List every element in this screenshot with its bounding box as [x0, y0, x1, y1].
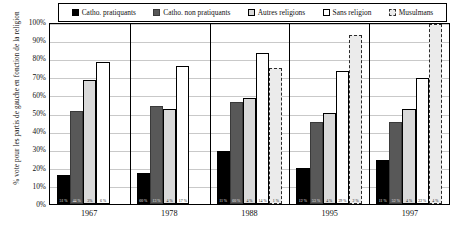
bar-base-note: 4 % — [167, 199, 173, 203]
bar-base-note: 14 % — [259, 199, 267, 203]
bar[interactable]: 4 % — [243, 98, 256, 204]
bar[interactable]: 4 % — [323, 113, 336, 204]
bar[interactable]: 22 % — [416, 78, 429, 204]
legend-swatch-icon — [248, 9, 255, 16]
bar[interactable]: 6 % — [96, 62, 109, 204]
bar-slot: 4 % — [243, 24, 256, 204]
bar-base-note: 1 % — [273, 199, 279, 203]
y-tick-label: 60% — [32, 92, 46, 100]
bar[interactable]: 52 % — [389, 122, 402, 204]
x-axis-tick-labels: 19671978198819951997 — [49, 207, 450, 223]
y-tick-label: 20% — [32, 165, 46, 173]
legend-item[interactable]: Autres religions — [248, 8, 305, 17]
bar-slot: 2 % — [349, 24, 362, 204]
bar[interactable]: 17 % — [176, 66, 189, 204]
bar-slot: 17 % — [176, 24, 189, 204]
legend-label: Autres religions — [258, 8, 305, 17]
bar-group-1995: 12 %53 %4 %29 %2 % — [289, 24, 369, 204]
bar[interactable]: 1 % — [269, 68, 282, 205]
bar-base-note: 60 % — [139, 199, 147, 203]
bar[interactable]: 44 % — [70, 111, 83, 204]
bar-base-note: 6 % — [100, 199, 106, 203]
bar-base-note: 53 % — [312, 199, 320, 203]
plot-area: 51 %44 %3%6 %60 %13 %4 %17 %11 %60 %4 %1… — [49, 23, 450, 205]
bar-slot: 52 % — [389, 24, 402, 204]
bar[interactable]: 29 % — [336, 71, 349, 204]
bar[interactable]: 3% — [83, 80, 96, 204]
bar-base-note: 29 % — [338, 199, 346, 203]
bar-base-note: 51 % — [59, 199, 67, 203]
legend-label: Catho. non pratiquants — [163, 8, 230, 17]
bar-base-note: 44 % — [73, 199, 81, 203]
bar-slot: 60 % — [137, 24, 150, 204]
legend-item[interactable]: Catho. pratiquants — [72, 8, 136, 17]
bar-slot: 4 % — [323, 24, 336, 204]
x-tick-label: 1978 — [129, 207, 209, 223]
bar[interactable]: 53 % — [310, 122, 323, 204]
y-axis-tick-labels: 0%10%20%30%40%50%60%70%80%90%100% — [12, 23, 46, 205]
bar-base-note: 17 % — [179, 199, 187, 203]
y-tick-label: 40% — [32, 128, 46, 136]
bar-group-1988: 11 %60 %4 %14 %1 % — [210, 24, 290, 204]
bar[interactable]: 14 % — [256, 53, 269, 204]
bar[interactable]: 12 % — [296, 168, 309, 204]
legend-item[interactable]: Musulmans — [389, 8, 434, 17]
bar-slot: 13 % — [150, 24, 163, 204]
y-tick-label: 10% — [32, 183, 46, 191]
bar-group-1997: 11 %52 %4 %22 %4 % — [369, 24, 449, 204]
bar[interactable]: 4 % — [402, 109, 415, 204]
legend-item[interactable]: Sans religion — [323, 8, 372, 17]
bar-base-note: 4 % — [246, 199, 252, 203]
y-tick-label: 90% — [32, 37, 46, 45]
bar-slot: 51 % — [57, 24, 70, 204]
legend-swatch-icon — [72, 9, 79, 16]
x-tick-label: 1995 — [290, 207, 370, 223]
y-tick-label: 70% — [32, 74, 46, 82]
bar[interactable]: 2 % — [349, 35, 362, 204]
bar-base-note: 13 % — [152, 199, 160, 203]
bar-slot: 53 % — [310, 24, 323, 204]
y-tick-label: 80% — [32, 55, 46, 63]
bar[interactable]: 51 % — [57, 175, 70, 204]
bar-slot — [110, 24, 123, 204]
bar-slot: 4 % — [402, 24, 415, 204]
bar-base-note: 11 % — [219, 199, 227, 203]
bar-base-note: 4 % — [326, 199, 332, 203]
bar-base-note: 2 % — [353, 199, 359, 203]
legend-label: Musulmans — [399, 8, 434, 17]
x-tick-label: 1967 — [49, 207, 129, 223]
bar-chart: % vote pour les partis de gauche en fonc… — [0, 0, 453, 237]
bar-slot: 6 % — [96, 24, 109, 204]
bar-slot: 14 % — [256, 24, 269, 204]
bar-slot: 12 % — [296, 24, 309, 204]
bar-base-note: 52 % — [392, 199, 400, 203]
bar-base-note: 3% — [87, 199, 92, 203]
bar-base-note: 11 % — [379, 199, 387, 203]
bar-slot: 11 % — [376, 24, 389, 204]
bar-slot — [189, 24, 202, 204]
bar[interactable]: 11 % — [217, 151, 230, 204]
bar[interactable]: 60 % — [230, 102, 243, 204]
bar-slot: 3% — [83, 24, 96, 204]
bar-slot: 4 % — [163, 24, 176, 204]
bar-group-1967: 51 %44 %3%6 % — [50, 24, 130, 204]
legend-swatch-icon — [323, 9, 330, 16]
bar[interactable]: 11 % — [376, 160, 389, 204]
bar-base-note: 4 % — [432, 199, 438, 203]
bar[interactable]: 4 % — [429, 24, 442, 204]
chart-legend: Catho. pratiquantsCatho. non pratiquants… — [58, 3, 447, 22]
bar[interactable]: 4 % — [163, 109, 176, 204]
bar-group-1978: 60 %13 %4 %17 % — [130, 24, 210, 204]
y-tick-label: 30% — [32, 146, 46, 154]
legend-item[interactable]: Catho. non pratiquants — [153, 8, 230, 17]
bar[interactable]: 60 % — [137, 173, 150, 204]
legend-swatch-icon — [389, 9, 396, 16]
bar-slot: 1 % — [269, 24, 282, 204]
bar-slot: 60 % — [230, 24, 243, 204]
x-tick-label: 1997 — [370, 207, 450, 223]
bar-base-note: 22 % — [418, 199, 426, 203]
bar-slot: 4 % — [429, 24, 442, 204]
bar-slot: 44 % — [70, 24, 83, 204]
bar[interactable]: 13 % — [150, 106, 163, 204]
bar-base-note: 60 % — [232, 199, 240, 203]
